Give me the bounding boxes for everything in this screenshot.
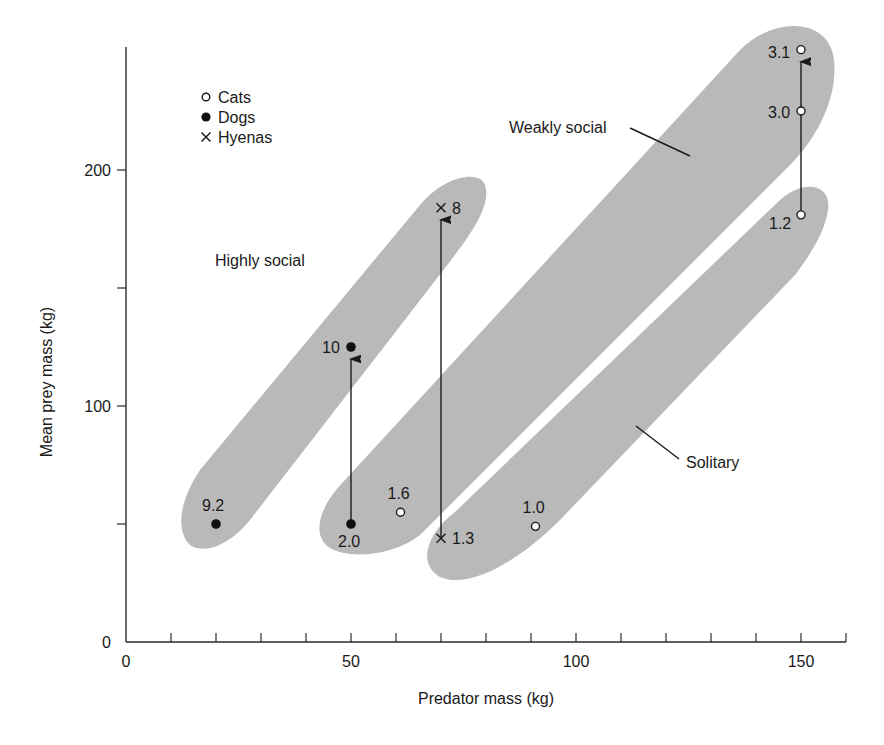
open-circle-marker-icon	[532, 522, 540, 530]
leader-solitary	[636, 426, 679, 459]
label-weakly-social: Weakly social	[509, 119, 607, 136]
open-circle-marker-icon	[797, 107, 805, 115]
y-tick-label: 0	[102, 634, 111, 651]
point-label: 3.0	[768, 104, 790, 121]
y-tick-label: 200	[84, 162, 111, 179]
point-label: 8	[452, 200, 461, 217]
filled-circle-marker-icon	[346, 519, 356, 529]
point-label: 1.3	[452, 530, 474, 547]
open-circle-marker-icon	[397, 508, 405, 516]
open-circle-marker-icon	[202, 93, 210, 101]
label-highly-social: Highly social	[215, 252, 305, 269]
point-label: 1.0	[523, 499, 545, 516]
x-tick-label: 50	[342, 653, 360, 670]
filled-circle-marker-icon	[201, 112, 210, 121]
point-label: 9.2	[202, 497, 224, 514]
scatter-chart: 0100200 050100150 Predator mass (kg) Mea…	[0, 0, 884, 745]
point-label: 1.6	[388, 485, 410, 502]
open-circle-marker-icon	[797, 211, 805, 219]
open-circle-marker-icon	[797, 46, 805, 54]
legend-entry-dogs: Dogs	[218, 109, 255, 126]
point-label: 10	[322, 339, 340, 356]
x-tick-label: 0	[122, 653, 131, 670]
filled-circle-marker-icon	[211, 519, 221, 529]
filled-circle-marker-icon	[346, 342, 356, 352]
point-label: 3.1	[768, 44, 790, 61]
y-axis-title: Mean prey mass (kg)	[38, 307, 55, 457]
x-ticks: 050100150	[122, 633, 846, 670]
point-label: 2.0	[338, 533, 360, 550]
x-axis-title: Predator mass (kg)	[418, 690, 554, 707]
point-label: 1.2	[769, 215, 791, 232]
label-solitary: Solitary	[686, 454, 739, 471]
cross-marker-icon	[202, 133, 211, 142]
legend: CatsDogsHyenas	[201, 89, 272, 146]
y-tick-label: 100	[84, 398, 111, 415]
legend-entry-hyenas: Hyenas	[218, 129, 272, 146]
regions	[181, 26, 834, 580]
legend-entry-cats: Cats	[218, 89, 251, 106]
x-tick-label: 100	[563, 653, 590, 670]
y-ticks: 0100200	[84, 162, 126, 651]
x-tick-label: 150	[788, 653, 815, 670]
